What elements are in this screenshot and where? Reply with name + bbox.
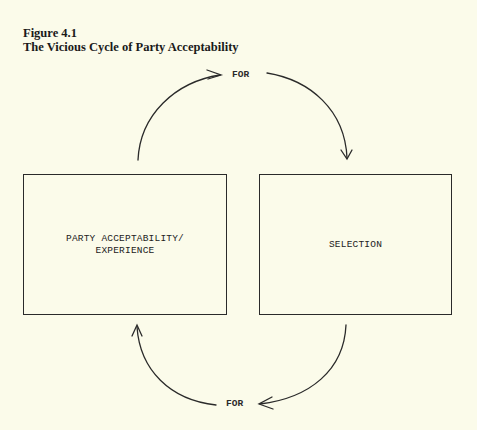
arrow-top-right <box>267 73 347 158</box>
node-label: PARTY ACCEPTABILITY/ EXPERIENCE <box>66 233 184 256</box>
node-selection: SELECTION <box>259 174 452 315</box>
node-party-acceptability: PARTY ACCEPTABILITY/ EXPERIENCE <box>23 174 227 315</box>
node-label: SELECTION <box>329 239 382 251</box>
arrow-bottom-right <box>260 325 346 404</box>
arrow-bottom-left <box>137 327 216 405</box>
arrow-top-left <box>138 75 220 160</box>
edge-label-top: FOR <box>232 69 249 80</box>
edge-label-bottom: FOR <box>226 398 243 409</box>
